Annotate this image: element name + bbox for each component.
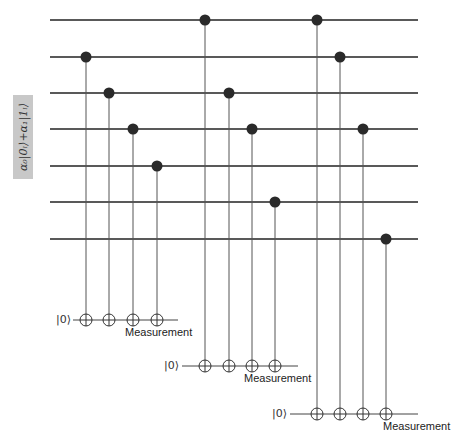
- xor-target-icon: [80, 314, 92, 326]
- control-dot-icon: [335, 52, 346, 63]
- xor-target-icon: [199, 360, 211, 372]
- xor-target-icon: [380, 408, 392, 420]
- xor-target-icon: [357, 408, 369, 420]
- circuit-diagram: [0, 0, 455, 443]
- ancilla-2-measurement: Measurement: [244, 372, 311, 384]
- xor-target-icon: [151, 314, 163, 326]
- control-dot-icon: [128, 124, 139, 135]
- control-dot-icon: [224, 88, 235, 99]
- xor-target-icon: [103, 314, 115, 326]
- ancilla-3-measurement: Measurement: [383, 420, 450, 432]
- ancilla-3-label: |0⟩: [272, 407, 287, 420]
- control-dot-icon: [247, 124, 258, 135]
- control-dot-icon: [381, 234, 392, 245]
- ancilla-1-label: |0⟩: [56, 313, 71, 326]
- control-dot-icon: [358, 124, 369, 135]
- xor-target-icon: [311, 408, 323, 420]
- xor-target-icon: [223, 360, 235, 372]
- control-dot-icon: [200, 15, 211, 26]
- cnot-control-lines: [86, 20, 386, 414]
- xor-target-icon: [269, 360, 281, 372]
- xor-target-icon: [246, 360, 258, 372]
- xor-target-icon: [334, 408, 346, 420]
- control-dot-icon: [81, 52, 92, 63]
- control-dot-icon: [270, 197, 281, 208]
- ancilla-2-label: |0⟩: [164, 359, 179, 372]
- control-dot-icon: [152, 161, 163, 172]
- ancilla-1-measurement: Measurement: [125, 326, 192, 338]
- xor-target-icon: [127, 314, 139, 326]
- control-dot-icon: [104, 88, 115, 99]
- control-dot-icon: [312, 15, 323, 26]
